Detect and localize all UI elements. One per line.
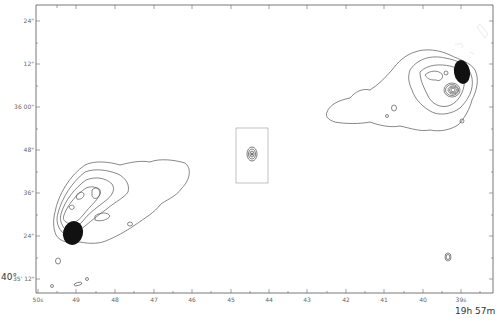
faint-artifacts (455, 24, 488, 54)
x-label-39: 39s (456, 296, 467, 303)
plot-frame (36, 5, 493, 293)
contour-map-figure: 24" 12" 36 00" 48" 36" 24" 40° 35' 12" 5… (0, 0, 503, 320)
y-label-12: 12" (0, 60, 34, 67)
y-label-48: 48" (0, 146, 34, 153)
x-label-43: 43 (303, 296, 311, 303)
x-label-49: 49 (72, 296, 80, 303)
east-hotspot (452, 59, 472, 85)
x-label-44: 44 (265, 296, 273, 303)
x-label-48: 48 (111, 296, 119, 303)
y-label-24b: 24" (0, 232, 34, 239)
x-label-42: 42 (342, 296, 350, 303)
x-label-45: 45 (227, 296, 235, 303)
x-label-46: 46 (188, 296, 196, 303)
core-inset (236, 128, 268, 183)
x-label-50: 50s (33, 296, 44, 303)
y-label-24: 24" (0, 17, 34, 24)
y-label-36: 36" (0, 189, 34, 196)
contour-map-plot (0, 0, 503, 320)
x-label-41: 41 (380, 296, 388, 303)
y-label-36-00: 36 00" (0, 103, 34, 110)
y-origin-label: 35' 12" (13, 275, 35, 282)
y-axis-ticks (36, 21, 493, 279)
x-label-40: 40 (419, 296, 427, 303)
x-axis-ticks (38, 5, 480, 293)
east-lobe-contours (326, 50, 477, 261)
x-origin-label: 19h 57m (455, 306, 495, 316)
x-label-47: 47 (150, 296, 158, 303)
west-hotspot (60, 219, 86, 247)
